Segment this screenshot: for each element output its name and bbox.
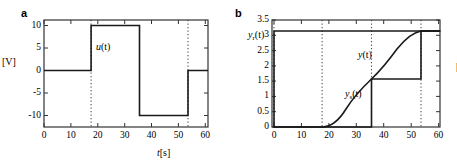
panel-b-xtick-2: 20 [324, 131, 334, 141]
panel-b-xtick-6: 60 [434, 131, 444, 141]
curve-label-ys-sub: s [349, 93, 352, 101]
curve-label-u-arg: (t) [101, 41, 110, 52]
panel-a-xtick-1: 10 [66, 131, 76, 141]
panel-b-xtick-4: 40 [379, 131, 389, 141]
panel-a-ytick-2: 0 [36, 66, 41, 76]
panel-b-x-ticks [274, 20, 439, 127]
panel-a-xtick-2: 20 [93, 131, 103, 141]
panel-a-ytick-4: -10 [28, 111, 41, 121]
panel-a-xtick-0: 0 [42, 131, 47, 141]
panel-b-xtick-5: 50 [406, 131, 416, 141]
panel-b-guide-lines [274, 20, 421, 127]
panel-b-curve-ys [274, 31, 440, 127]
panel-a-xtick-6: 60 [201, 131, 211, 141]
panel-a-x-ticks [44, 20, 205, 127]
panel-a-curve-u [44, 26, 208, 116]
panel-b-ytick-4: 1.5 [257, 76, 269, 86]
panel-b: b [228, 0, 457, 164]
panel-b-curve-label-y: y(t) [358, 50, 372, 60]
panel-b-xtick-0: 0 [272, 131, 277, 141]
panel-a: a [0, 0, 228, 164]
panel-b-ytick-1: 3 [264, 31, 269, 41]
panel-b-ytick-3: 2 [264, 61, 269, 71]
panel-a-x-axis-label: t[s] [157, 148, 170, 158]
panel-b-ytick-6: 0.5 [257, 107, 269, 117]
figure-container: a [0, 0, 457, 164]
panel-b-axes-frame [272, 20, 440, 127]
panel-a-ytick-1: 5 [36, 43, 41, 53]
panel-b-ytick-0: 3.5 [257, 15, 269, 25]
panel-b-curve-label-yr: yr(t) [248, 30, 264, 40]
panel-a-axes-frame [44, 20, 208, 127]
curve-label-ys-arg: (t) [352, 88, 361, 99]
panel-b-curve-label-ys: ys(t) [345, 89, 362, 99]
panel-b-ytick-2: 2.5 [257, 46, 269, 56]
panel-a-x-axis-unit: [s] [160, 147, 171, 158]
panel-b-xtick-1: 10 [297, 131, 307, 141]
panel-a-xtick-4: 40 [147, 131, 157, 141]
panel-a-y-axis-unit: [V] [2, 57, 16, 67]
panel-a-curve-label-u: u(t) [96, 42, 110, 52]
panel-a-xtick-5: 50 [174, 131, 184, 141]
panel-b-y-ticks [272, 20, 440, 127]
curve-label-yr-arg: (t) [255, 29, 264, 40]
panel-a-ytick-0: 10 [32, 21, 42, 31]
panel-a-xtick-3: 30 [120, 131, 130, 141]
curve-label-yr-sub: r [252, 34, 254, 42]
panel-b-ytick-7: 0 [264, 122, 269, 132]
panel-b-xtick-3: 30 [352, 131, 362, 141]
panel-b-ytick-5: 1 [264, 92, 269, 102]
panel-a-ytick-3: -5 [33, 88, 41, 98]
curve-label-y-arg: (t) [362, 49, 371, 60]
